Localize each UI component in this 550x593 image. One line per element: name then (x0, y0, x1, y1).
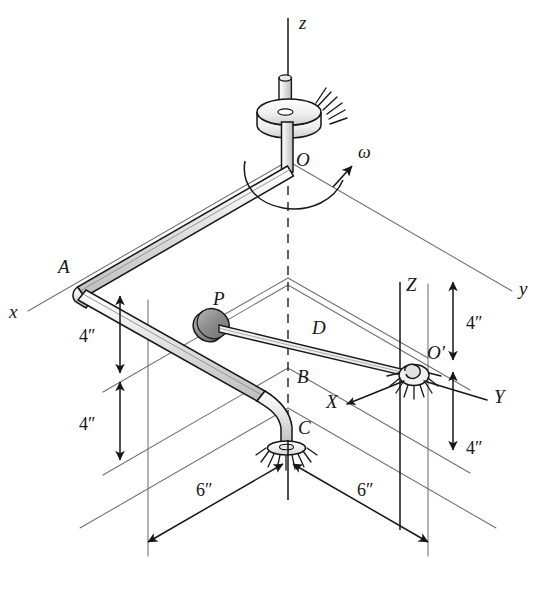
grid-low-right (288, 368, 470, 473)
dim-bottom-right-line (293, 464, 428, 542)
top-bearing-assembly (257, 75, 347, 138)
dim-label-right-upper: 4″ (466, 313, 483, 333)
dim-label-left-lower: 4″ (79, 414, 96, 434)
point-label-A: A (56, 256, 70, 277)
arm-OA-highlight (81, 170, 290, 291)
axis-label-X-moving: X (325, 391, 339, 412)
axis-label-z: z (298, 12, 307, 33)
diagram-labels: z x y Z X Y O A P B C O′ D ω 4″ 4″ 4″ 4″… (8, 12, 528, 500)
omega-arrow (333, 166, 352, 187)
bearing-disc-bore (278, 109, 293, 115)
point-label-C: C (298, 417, 311, 438)
omega-label: ω (358, 142, 371, 162)
dim-label-bottom-left: 6″ (196, 480, 213, 500)
grid-base-right (288, 408, 496, 528)
sliding-collar-P (193, 309, 229, 342)
axis-label-y: y (517, 278, 528, 299)
axis-line-y (288, 161, 512, 291)
link-label-D: D (311, 317, 326, 338)
arm-AB-highlight (84, 295, 262, 396)
axis-label-Z-moving: Z (406, 274, 417, 295)
axis-label-x: x (8, 301, 18, 322)
arm-bend-B (257, 391, 292, 446)
point-label-P: P (212, 288, 225, 309)
ball-joint-ball (405, 364, 420, 378)
bearing-stub-top (279, 75, 291, 81)
mechanism-diagram: z x y Z X Y O A P B C O′ D ω 4″ 4″ 4″ 4″… (0, 0, 550, 593)
axis-line-x (28, 161, 288, 311)
moving-axis-Y-line (424, 381, 487, 400)
grid-low-left (103, 368, 288, 475)
dim-bottom-left-line (148, 464, 283, 542)
axis-label-Y-moving: Y (494, 386, 507, 407)
dim-label-left-upper: 4″ (79, 326, 96, 346)
point-label-B: B (297, 366, 309, 387)
base-pivot-C-bore (280, 444, 294, 450)
figure-container: z x y Z X Y O A P B C O′ D ω 4″ 4″ 4″ 4″… (0, 0, 550, 593)
rotating-arm-assembly (73, 122, 317, 470)
dim-label-right-lower: 4″ (466, 438, 483, 458)
arm-segment-OA (78, 166, 294, 297)
point-label-O: O (296, 149, 310, 170)
arm-shaft-vertical (282, 122, 294, 172)
point-label-O-prime: O′ (427, 342, 446, 363)
grid-base-left (80, 408, 288, 528)
moving-axis-X-line (347, 381, 404, 404)
dim-label-bottom-right: 6″ (357, 480, 374, 500)
